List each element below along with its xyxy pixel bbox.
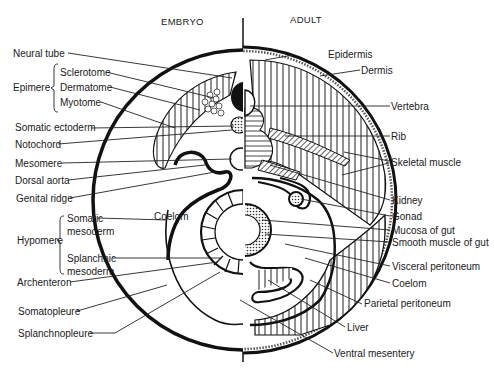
- label-neural-tube: Neural tube: [13, 48, 65, 59]
- label-skeletal-muscle: Skeletal muscle: [391, 157, 461, 168]
- embryo-header: EMBRYO: [161, 16, 204, 27]
- label-parietal-peritoneum: Parietal peritoneum: [364, 298, 451, 309]
- label-rib: Rib: [391, 131, 406, 142]
- label-splanchnic-mesoderm-line2: mesoderm: [67, 266, 114, 277]
- label-ventral-mesentery: Ventral mesentery: [334, 348, 415, 359]
- label-vertebra: Vertebra: [391, 101, 429, 112]
- label-epimere: Epimere: [13, 82, 51, 93]
- label-liver: Liver: [347, 322, 369, 333]
- section-headers: EMBRYO ADULT: [161, 14, 322, 27]
- label-sclerotome: Sclerotome: [60, 67, 111, 78]
- embryo-adult-cross-section-diagram: EMBRYO ADULT: [0, 0, 494, 370]
- label-splanchnic-mesoderm-line1: Splanchnic: [67, 253, 116, 264]
- label-coelom-adult: Coelom: [392, 278, 426, 289]
- label-visceral-peritoneum: Visceral peritoneum: [392, 261, 480, 272]
- label-myotome: Myotome: [60, 97, 102, 108]
- label-mesomere: Mesomere: [15, 158, 63, 169]
- label-dermatome: Dermatome: [60, 82, 113, 93]
- label-epidermis: Epidermis: [328, 49, 372, 60]
- label-hypomere: Hypomere: [17, 235, 64, 246]
- label-somatopleure: Somatopleure: [18, 306, 81, 317]
- label-kidney: Kidney: [392, 195, 423, 206]
- label-notochord: Notochord: [15, 139, 61, 150]
- label-genital-ridge: Genital ridge: [16, 193, 73, 204]
- label-dermis: Dermis: [361, 65, 393, 76]
- adult-header: ADULT: [290, 14, 322, 25]
- label-mucosa-of-gut: Mucosa of gut: [392, 225, 455, 236]
- label-dorsal-aorta: Dorsal aorta: [15, 175, 70, 186]
- label-somatic-ectoderm: Somatic ectoderm: [15, 122, 96, 133]
- label-coelom-embryo: Coelom: [154, 211, 188, 222]
- label-splanchnopleure: Splanchnopleure: [18, 328, 93, 339]
- label-archenteron: Archenteron: [17, 277, 71, 288]
- label-somatic-mesoderm-line2: mesoderm: [67, 226, 114, 237]
- label-gonad: Gonad: [392, 211, 422, 222]
- label-smooth-muscle-of-gut: Smooth muscle of gut: [392, 237, 489, 248]
- label-somatic-mesoderm-line1: Somatic: [67, 213, 103, 224]
